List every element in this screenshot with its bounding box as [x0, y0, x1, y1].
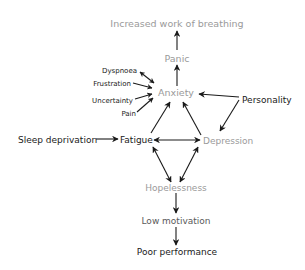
node-dyspnoea: Dyspnoea [102, 67, 137, 75]
node-increased-work-of-breathing: Increased work of breathing [110, 18, 243, 29]
arrow-dyspnoea-anxiety [140, 72, 154, 83]
node-depression: Depression [203, 136, 253, 146]
arrow-pain-to-anxiety [137, 98, 153, 112]
node-poor-performance: Poor performance [137, 247, 218, 257]
anxiety-fatigue-diagram: Increased work of breathing Panic Anxiet… [0, 0, 305, 270]
node-pain: Pain [121, 110, 136, 118]
node-sleep-deprivation: Sleep deprivation [18, 135, 97, 145]
arrow-personality-to-depression [220, 100, 239, 131]
node-uncertainty: Uncertainty [92, 97, 133, 105]
arrow-depression-hopelessness [180, 147, 198, 182]
arrow-frustration-to-anxiety [133, 83, 152, 88]
node-hopelessness: Hopelessness [145, 183, 207, 193]
arrow-personality-to-anxiety [199, 94, 239, 97]
arrow-depression-to-anxiety [183, 102, 201, 135]
nodes: Increased work of breathing Panic Anxiet… [18, 18, 292, 257]
node-anxiety: Anxiety [158, 87, 194, 98]
arrow-fatigue-hopelessness [153, 147, 171, 182]
arrow-uncertainty-to-anxiety [135, 94, 152, 99]
node-panic: Panic [164, 53, 189, 64]
node-personality: Personality [242, 95, 292, 105]
node-frustration: Frustration [93, 80, 131, 88]
node-fatigue: Fatigue [120, 135, 153, 145]
node-low-motivation: Low motivation [142, 216, 211, 226]
arrow-fatigue-to-anxiety [151, 102, 170, 133]
